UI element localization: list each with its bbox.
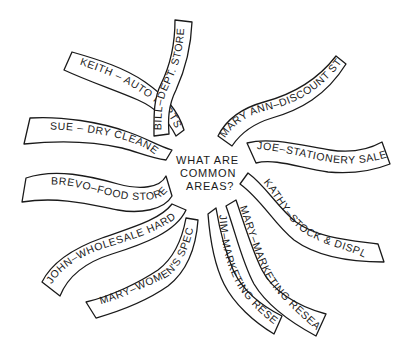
ribbon-joe: JOE–STATIONERY SALES	[0, 0, 390, 173]
center-question: WHAT ARE COMMON AREAS?	[176, 154, 239, 192]
center-line-3: AREAS?	[186, 180, 234, 192]
ribbon-brevo: BREVO–FOOD STORE	[22, 173, 172, 211]
center-line-2: COMMON	[180, 167, 236, 179]
ribbon-mary-womens: MARY–WOMEN'S SPECIALTY	[0, 0, 198, 318]
brainstorm-diagram: KEITH – AUTO PARTS BILL–DEPT. STORE MGT.…	[0, 0, 409, 360]
center-line-1: WHAT ARE	[176, 154, 239, 166]
